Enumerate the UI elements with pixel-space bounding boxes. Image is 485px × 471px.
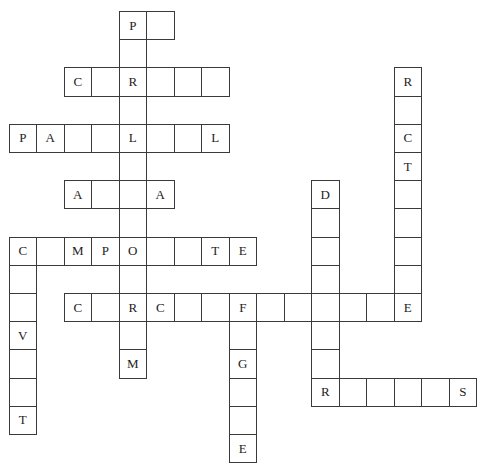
crossword-cell[interactable]: A	[146, 180, 175, 209]
crossword-cell[interactable]: M	[119, 349, 148, 378]
crossword-cell[interactable]: P	[9, 124, 38, 153]
crossword-cell[interactable]	[394, 208, 423, 237]
crossword-cell[interactable]: D	[311, 180, 340, 209]
crossword-cell[interactable]: L	[201, 124, 230, 153]
crossword-cell[interactable]: C	[64, 67, 93, 96]
crossword-cell[interactable]	[311, 293, 340, 322]
crossword-cell[interactable]	[9, 349, 38, 378]
crossword-grid: PRLORMCPALAACMPTEVTCCFERCTDRGES	[0, 0, 485, 471]
crossword-cell[interactable]	[91, 180, 120, 209]
crossword-cell[interactable]: V	[9, 321, 38, 350]
crossword-cell[interactable]: E	[394, 293, 423, 322]
crossword-cell[interactable]	[64, 124, 93, 153]
crossword-cell[interactable]	[91, 124, 120, 153]
crossword-cell[interactable]	[146, 124, 175, 153]
crossword-cell[interactable]	[91, 67, 120, 96]
crossword-cell[interactable]	[311, 265, 340, 294]
crossword-cell[interactable]	[366, 293, 395, 322]
crossword-cell[interactable]: A	[64, 180, 93, 209]
crossword-cell[interactable]	[146, 11, 175, 40]
crossword-cell[interactable]	[201, 293, 230, 322]
crossword-cell[interactable]: G	[229, 349, 258, 378]
crossword-cell[interactable]	[36, 237, 65, 266]
crossword-cell[interactable]	[119, 180, 148, 209]
crossword-cell[interactable]	[91, 293, 120, 322]
crossword-cell[interactable]	[394, 237, 423, 266]
crossword-cell[interactable]	[119, 39, 148, 68]
crossword-cell[interactable]: T	[201, 237, 230, 266]
crossword-cell[interactable]	[146, 237, 175, 266]
crossword-cell[interactable]: M	[64, 237, 93, 266]
crossword-cell[interactable]	[201, 67, 230, 96]
crossword-cell[interactable]	[284, 293, 313, 322]
crossword-cell[interactable]	[229, 378, 258, 407]
crossword-cell[interactable]	[119, 96, 148, 125]
crossword-cell[interactable]	[256, 293, 285, 322]
crossword-cell[interactable]: L	[119, 124, 148, 153]
crossword-cell[interactable]	[311, 237, 340, 266]
crossword-cell[interactable]: R	[119, 67, 148, 96]
crossword-cell[interactable]: C	[9, 237, 38, 266]
crossword-cell[interactable]: E	[229, 237, 258, 266]
crossword-cell[interactable]	[339, 293, 368, 322]
crossword-cell[interactable]	[119, 321, 148, 350]
crossword-cell[interactable]	[174, 237, 203, 266]
crossword-cell[interactable]	[174, 293, 203, 322]
crossword-cell[interactable]: O	[119, 237, 148, 266]
crossword-cell[interactable]: P	[119, 11, 148, 40]
crossword-cell[interactable]	[119, 265, 148, 294]
crossword-cell[interactable]	[174, 67, 203, 96]
crossword-cell[interactable]	[339, 378, 368, 407]
crossword-cell[interactable]: R	[119, 293, 148, 322]
crossword-cell[interactable]	[421, 378, 450, 407]
crossword-cell[interactable]: R	[394, 67, 423, 96]
crossword-cell[interactable]: S	[449, 378, 478, 407]
crossword-cell[interactable]	[394, 180, 423, 209]
crossword-cell[interactable]	[229, 406, 258, 435]
crossword-cell[interactable]	[119, 208, 148, 237]
crossword-cell[interactable]	[366, 378, 395, 407]
crossword-cell[interactable]	[394, 96, 423, 125]
crossword-cell[interactable]: A	[36, 124, 65, 153]
crossword-cell[interactable]: C	[146, 293, 175, 322]
crossword-cell[interactable]: T	[394, 152, 423, 181]
crossword-cell[interactable]	[229, 321, 258, 350]
crossword-cell[interactable]: E	[229, 434, 258, 463]
crossword-cell[interactable]: F	[229, 293, 258, 322]
crossword-cell[interactable]	[9, 265, 38, 294]
crossword-cell[interactable]: P	[91, 237, 120, 266]
crossword-cell[interactable]	[311, 349, 340, 378]
crossword-cell[interactable]: C	[394, 124, 423, 153]
crossword-cell[interactable]	[174, 124, 203, 153]
crossword-cell[interactable]	[394, 265, 423, 294]
crossword-cell[interactable]: C	[64, 293, 93, 322]
crossword-cell[interactable]: T	[9, 406, 38, 435]
crossword-cell[interactable]	[146, 67, 175, 96]
crossword-cell[interactable]	[9, 293, 38, 322]
crossword-cell[interactable]	[311, 321, 340, 350]
crossword-cell[interactable]	[394, 378, 423, 407]
crossword-cell[interactable]	[119, 152, 148, 181]
crossword-cell[interactable]	[311, 208, 340, 237]
crossword-cell[interactable]	[9, 378, 38, 407]
crossword-cell[interactable]: R	[311, 378, 340, 407]
